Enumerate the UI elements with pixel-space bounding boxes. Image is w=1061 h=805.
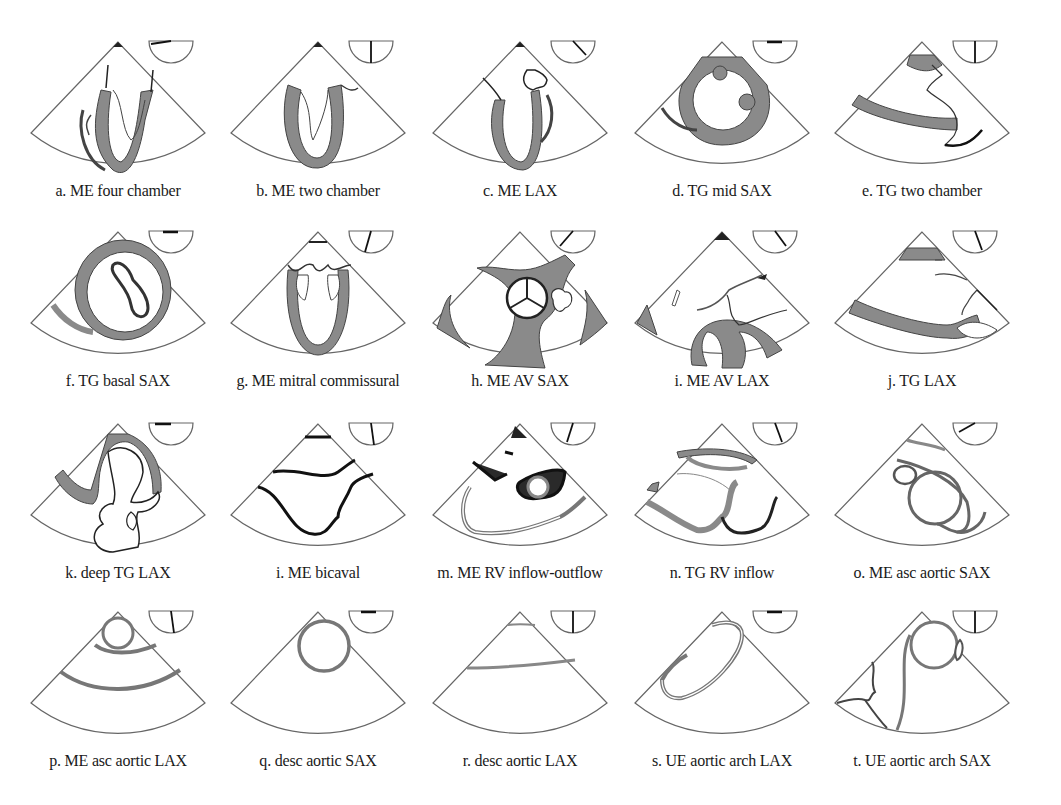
sector-diagram-h <box>415 220 625 385</box>
sector-diagram-q <box>213 600 423 765</box>
panel-q: q. desc aortic SAX <box>213 600 423 790</box>
sector-diagram-m <box>415 412 625 577</box>
sector-diagram-b <box>213 30 423 195</box>
panel-label-g: g. ME mitral commissural <box>203 372 433 390</box>
panel-l: i. ME bicaval <box>213 412 423 602</box>
panel-label-m: m. ME RV inflow-outflow <box>405 564 635 582</box>
panel-r: r. desc aortic LAX <box>415 600 625 790</box>
panel-label-i: i. ME AV LAX <box>607 372 837 390</box>
omniplane-indicator-icon <box>753 423 797 445</box>
omniplane-indicator-icon <box>551 423 595 445</box>
panel-j: j. TG LAX <box>817 220 1027 410</box>
sector-diagram-i <box>617 220 827 385</box>
sector-diagram-e <box>817 30 1027 195</box>
panel-label-j: j. TG LAX <box>807 372 1037 390</box>
omniplane-indicator-icon <box>753 231 797 253</box>
panel-s: s. UE aortic arch LAX <box>617 600 827 790</box>
tee-views-figure: a. ME four chamber b. ME two chamber c. … <box>0 0 1061 805</box>
panel-n: n. TG RV inflow <box>617 412 827 602</box>
panel-a: a. ME four chamber <box>13 30 223 220</box>
panel-label-k: k. deep TG LAX <box>3 564 233 582</box>
sector-diagram-k <box>13 412 223 577</box>
panel-b: b. ME two chamber <box>213 30 423 220</box>
panel-g: g. ME mitral commissural <box>213 220 423 410</box>
omniplane-indicator-icon <box>753 41 797 63</box>
sector-diagram-g <box>213 220 423 385</box>
omniplane-indicator-icon <box>551 41 595 63</box>
panel-h: h. ME AV SAX <box>415 220 625 410</box>
sector-diagram-s <box>617 600 827 765</box>
panel-label-b: b. ME two chamber <box>203 182 433 200</box>
panel-label-d: d. TG mid SAX <box>607 182 837 200</box>
sector-diagram-f <box>13 220 223 385</box>
sector-diagram-d <box>617 30 827 195</box>
panel-m: m. ME RV inflow-outflow <box>415 412 625 602</box>
panel-label-r: r. desc aortic LAX <box>405 752 635 770</box>
omniplane-indicator-icon <box>349 231 393 253</box>
omniplane-indicator-icon <box>953 423 997 445</box>
sector-diagram-t <box>817 600 1027 765</box>
sector-diagram-l <box>213 412 423 577</box>
panel-label-p: p. ME asc aortic LAX <box>3 752 233 770</box>
panel-label-o: o. ME asc aortic SAX <box>807 564 1037 582</box>
sector-diagram-r <box>415 600 625 765</box>
panel-p: p. ME asc aortic LAX <box>13 600 223 790</box>
omniplane-indicator-icon <box>349 611 393 633</box>
panel-label-h: h. ME AV SAX <box>405 372 635 390</box>
sector-diagram-a <box>13 30 223 195</box>
sector-diagram-n <box>617 412 827 577</box>
panel-c: c. ME LAX <box>415 30 625 220</box>
omniplane-indicator-icon <box>149 231 193 253</box>
sector-diagram-j <box>817 220 1027 385</box>
panel-f: f. TG basal SAX <box>13 220 223 410</box>
panel-label-s: s. UE aortic arch LAX <box>607 752 837 770</box>
sector-diagram-c <box>415 30 625 195</box>
panel-label-n: n. TG RV inflow <box>607 564 837 582</box>
panel-label-l: i. ME bicaval <box>203 564 433 582</box>
omniplane-indicator-icon <box>551 231 595 253</box>
panel-d: d. TG mid SAX <box>617 30 827 220</box>
panel-i: i. ME AV LAX <box>617 220 827 410</box>
panel-label-q: q. desc aortic SAX <box>203 752 433 770</box>
panel-label-a: a. ME four chamber <box>3 182 233 200</box>
omniplane-indicator-icon <box>753 611 797 633</box>
panel-label-f: f. TG basal SAX <box>3 372 233 390</box>
omniplane-indicator-icon <box>149 423 193 445</box>
sector-diagram-o <box>817 412 1027 577</box>
panel-label-e: e. TG two chamber <box>807 182 1037 200</box>
sector-diagram-p <box>13 600 223 765</box>
panel-label-c: c. ME LAX <box>405 182 635 200</box>
panel-k: k. deep TG LAX <box>13 412 223 602</box>
panel-o: o. ME asc aortic SAX <box>817 412 1027 602</box>
omniplane-indicator-icon <box>953 231 997 253</box>
panel-t: t. UE aortic arch SAX <box>817 600 1027 790</box>
panel-e: e. TG two chamber <box>817 30 1027 220</box>
omniplane-indicator-icon <box>149 41 193 63</box>
panel-label-t: t. UE aortic arch SAX <box>807 752 1037 770</box>
